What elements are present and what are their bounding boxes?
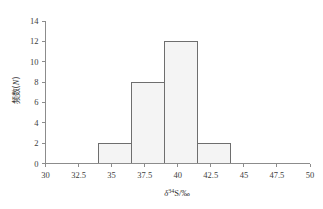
bars-group — [98, 41, 230, 163]
x-tick-label: 50 — [306, 170, 315, 180]
chart-canvas: 02468101214 3032.53537.54042.54547.550 δ… — [0, 0, 323, 209]
y-axis-title: 频数(N) — [5, 55, 27, 125]
y-ticks-group: 02468101214 — [30, 16, 46, 169]
histogram-figure: 02468101214 3032.53537.54042.54547.550 δ… — [0, 0, 323, 209]
histogram-bar — [98, 143, 131, 163]
y-tick-label: 8 — [34, 77, 38, 87]
y-tick-label: 2 — [34, 138, 38, 148]
x-tick-label: 35 — [107, 170, 116, 180]
y-tick-label: 14 — [30, 16, 39, 26]
x-tick-label: 30 — [41, 170, 50, 180]
x-tick-label: 40 — [174, 170, 183, 180]
y-tick-label: 12 — [30, 36, 39, 46]
y-axis-title-text: 频数(N) — [11, 76, 22, 104]
x-tick-label: 45 — [240, 170, 249, 180]
x-tick-label: 32.5 — [71, 170, 86, 180]
y-tick-label: 0 — [34, 159, 38, 169]
x-tick-label: 42.5 — [203, 170, 218, 180]
y-tick-label: 4 — [34, 118, 39, 128]
x-ticks-group: 3032.53537.54042.54547.550 — [41, 164, 314, 180]
x-tick-label: 47.5 — [269, 170, 284, 180]
x-tick-label: 37.5 — [137, 170, 152, 180]
histogram-bar — [165, 41, 198, 163]
y-tick-label: 6 — [34, 97, 38, 107]
histogram-bar — [131, 82, 164, 163]
x-axis-title: δ34S/‰ — [164, 188, 190, 199]
histogram-bar — [198, 143, 231, 163]
y-tick-label: 10 — [30, 57, 39, 67]
